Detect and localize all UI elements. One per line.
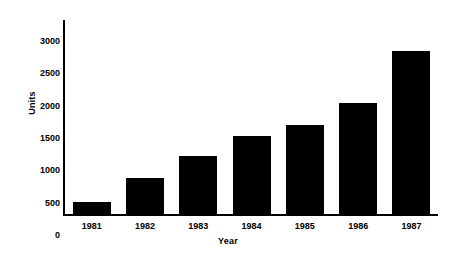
bar-slot [385, 20, 438, 214]
y-tick-label: 1000 [18, 165, 60, 175]
bar-slot [118, 20, 171, 214]
x-tick-label: 1987 [385, 220, 438, 232]
x-tick-label: 1981 [65, 220, 118, 232]
bar-1982[interactable] [126, 178, 164, 214]
bar-1985[interactable] [286, 125, 324, 214]
plot-area [63, 20, 438, 216]
x-tick-label: 1982 [118, 220, 171, 232]
x-axis-tick-labels: 1981 1982 1983 1984 1985 1986 1987 [65, 220, 438, 234]
bar-1984[interactable] [233, 136, 271, 214]
x-tick-label: 1984 [225, 220, 278, 232]
y-tick-label: 500 [18, 198, 60, 208]
x-axis-title: Year [0, 236, 456, 246]
bar-slot [332, 20, 385, 214]
bar-1986[interactable] [339, 103, 377, 214]
bar-series [65, 20, 438, 214]
bar-chart: Units 3000 2500 2000 1500 1000 500 0 [0, 0, 456, 257]
y-axis-tick-labels: 3000 2500 2000 1500 1000 500 0 [14, 20, 60, 216]
y-tick-label: 2000 [18, 101, 60, 111]
bar-slot [172, 20, 225, 214]
bar-slot [278, 20, 331, 214]
bar-1983[interactable] [179, 156, 217, 214]
bar-slot [65, 20, 118, 214]
bar-1981[interactable] [73, 202, 111, 214]
y-tick-label: 1500 [18, 133, 60, 143]
x-tick-label: 1983 [172, 220, 225, 232]
x-tick-label: 1985 [278, 220, 331, 232]
y-tick-label: 2500 [18, 68, 60, 78]
bar-1987[interactable] [392, 51, 430, 214]
x-tick-label: 1986 [332, 220, 385, 232]
y-tick-label: 3000 [18, 36, 60, 46]
bar-slot [225, 20, 278, 214]
x-axis-line [63, 214, 438, 216]
